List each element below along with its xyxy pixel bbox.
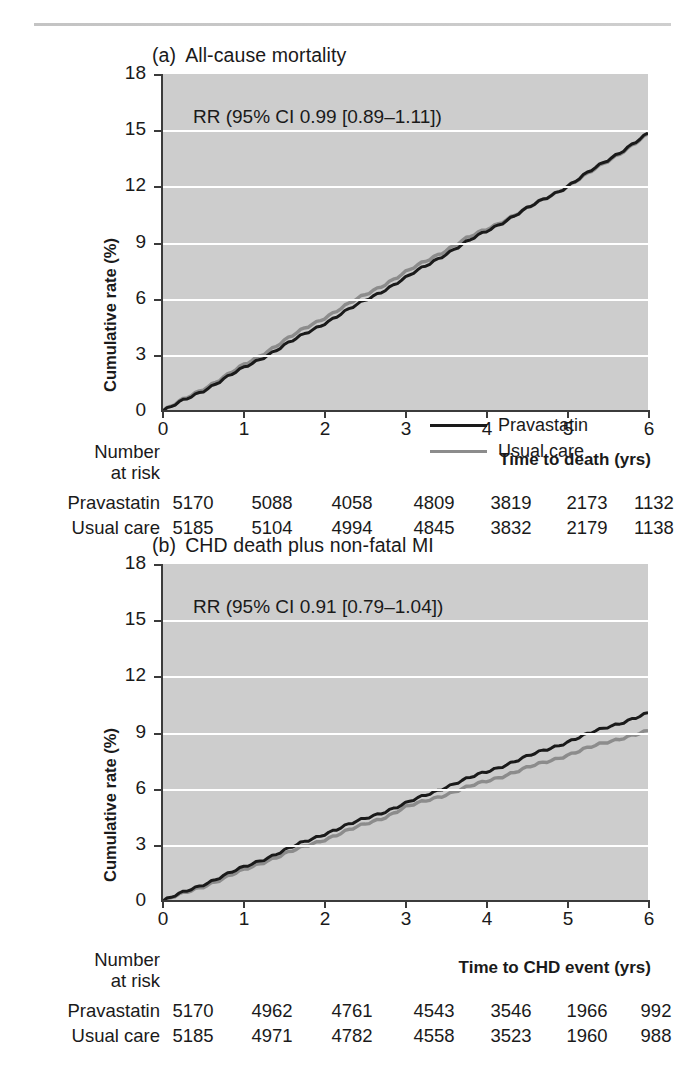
panel-b-ytick-9-mark <box>154 733 161 735</box>
panel-b-gridline-9 <box>163 733 648 735</box>
panel-b-gridline-6 <box>163 789 648 791</box>
panel-a-risk-pravastatin-4: 3819 <box>481 492 541 514</box>
panel-a-xtick-2: 2 <box>310 418 340 440</box>
panel-a-gridline-9 <box>163 243 648 245</box>
panel-b-ytick-9: 9 <box>106 721 146 743</box>
panel-b-ytick-6-mark <box>154 789 161 791</box>
panel-b-ytick-15: 15 <box>106 608 146 630</box>
panel-b-risk-pravastatin-4: 3546 <box>481 1000 541 1022</box>
panel-a-tag: (a) <box>152 44 176 66</box>
panel-b-y-axis-label: Cumulative rate (%) <box>101 728 120 882</box>
panel-a-xtick-6: 6 <box>634 418 664 440</box>
panel-b-xtick-5: 5 <box>553 908 583 930</box>
panel-b-title-text: CHD death plus non-fatal MI <box>185 534 434 556</box>
panel-b-risk-row-label-pravastatin: Pravastatin <box>18 1000 160 1022</box>
panel-b-ytick-6: 6 <box>106 777 146 799</box>
table-row: Pravastatin 5170 4962 4761 4543 3546 196… <box>0 1000 671 1025</box>
table-row: Usual care 5185 4971 4782 4558 3523 1960… <box>0 1025 671 1050</box>
panel-b-x-axis-label: Time to CHD event (yrs) <box>459 958 651 978</box>
panel-a-ytick-6: 6 <box>106 287 146 309</box>
panel-a-ytick-18: 18 <box>106 62 146 84</box>
panel-a-xtick-3-mark <box>405 411 407 418</box>
panel-b-rr-annotation: RR (95% CI 0.91 [0.79–1.04]) <box>193 596 443 618</box>
panel-a-gridline-12 <box>163 186 648 188</box>
panel-chd-death-plus-nonfatal-mi: (b)CHD death plus non-fatal MI Cumulativ… <box>0 534 671 1070</box>
panel-a-x-axis-label: Time to death (yrs) <box>499 450 651 470</box>
panel-a-gridline-3 <box>163 355 648 357</box>
panel-b-risk-pravastatin-3: 4543 <box>404 1000 464 1022</box>
panel-b-y-axis <box>161 564 163 902</box>
panel-a-ytick-9: 9 <box>106 231 146 253</box>
panel-b-risk-pravastatin-2: 4761 <box>322 1000 382 1022</box>
panel-a-ytick-15-mark <box>154 130 161 132</box>
panel-b-risk-usual-care-5: 1960 <box>557 1025 617 1047</box>
panel-b-xtick-4: 4 <box>472 908 502 930</box>
panel-b-xtick-1: 1 <box>229 908 259 930</box>
panel-b-risk-usual-care-4: 3523 <box>481 1025 541 1047</box>
panel-b-gridline-12 <box>163 676 648 678</box>
panel-b-xtick-0-mark <box>162 901 164 908</box>
panel-a-ytick-6-mark <box>154 299 161 301</box>
legend-item-pravastatin: Pravastatin <box>430 412 588 438</box>
panel-b-xtick-6-mark <box>648 901 650 908</box>
panel-b-risk-pravastatin-6: 992 <box>626 1000 678 1022</box>
panel-b-risk-pravastatin-1: 4962 <box>242 1000 302 1022</box>
panel-b-ytick-18-mark <box>154 564 161 566</box>
panel-all-cause-mortality: (a)All-cause mortality Cumulative rate (… <box>0 44 671 534</box>
panel-a-risk-table-header: Number at risk <box>18 442 160 483</box>
panel-a-xtick-3: 3 <box>391 418 421 440</box>
panel-a-ytick-9-mark <box>154 243 161 245</box>
panel-a-risk-header-line2: at risk <box>18 463 160 484</box>
panel-b-risk-table-header: Number at risk <box>18 950 160 991</box>
panel-b-tag: (b) <box>152 534 176 556</box>
panel-a-risk-header-line1: Number <box>18 442 160 463</box>
panel-a-xtick-2-mark <box>324 411 326 418</box>
panel-b-xtick-5-mark <box>567 901 569 908</box>
panel-b-xtick-3: 3 <box>391 908 421 930</box>
panel-a-xtick-0-mark <box>162 411 164 418</box>
panel-b-ytick-3: 3 <box>106 833 146 855</box>
panel-b-xtick-3-mark <box>405 901 407 908</box>
legend-line-pravastatin-icon <box>430 424 487 427</box>
panel-a-xtick-6-mark <box>648 411 650 418</box>
panel-b-risk-pravastatin-0: 5170 <box>163 1000 223 1022</box>
panel-a-y-axis-label: Cumulative rate (%) <box>101 238 120 392</box>
panel-a-risk-row-label-pravastatin: Pravastatin <box>18 492 160 514</box>
panel-b-risk-header-line2: at risk <box>18 971 160 992</box>
panel-a-risk-pravastatin-0: 5170 <box>163 492 223 514</box>
panel-b-risk-usual-care-6: 988 <box>626 1025 678 1047</box>
panel-a-ytick-18-mark <box>154 74 161 76</box>
panel-b-risk-row-label-usual-care: Usual care <box>18 1025 160 1047</box>
legend-label-pravastatin: Pravastatin <box>498 415 588 436</box>
panel-a-ytick-0: 0 <box>106 399 146 421</box>
panel-b-risk-usual-care-1: 4971 <box>242 1025 302 1047</box>
panel-a-risk-pravastatin-5: 2173 <box>557 492 617 514</box>
panel-a-xtick-1-mark <box>243 411 245 418</box>
panel-b-ytick-12-mark <box>154 676 161 678</box>
panel-a-risk-pravastatin-2: 4058 <box>322 492 382 514</box>
panel-b-xtick-0: 0 <box>148 908 178 930</box>
panel-a-xtick-0: 0 <box>148 418 178 440</box>
table-row: Pravastatin 5170 5088 4058 4809 3819 217… <box>0 492 671 517</box>
panel-b-risk-usual-care-3: 4558 <box>404 1025 464 1047</box>
page-top-rule <box>34 23 671 26</box>
panel-a-xtick-1: 1 <box>229 418 259 440</box>
panel-b-title: (b)CHD death plus non-fatal MI <box>152 534 434 557</box>
panel-b-risk-header-line1: Number <box>18 950 160 971</box>
panel-a-risk-pravastatin-1: 5088 <box>242 492 302 514</box>
panel-a-gridline-15 <box>163 130 648 132</box>
panel-b-xtick-1-mark <box>243 901 245 908</box>
panel-b-ytick-0: 0 <box>106 889 146 911</box>
panel-a-risk-pravastatin-6: 1132 <box>624 492 678 514</box>
panel-a-ytick-3-mark <box>154 355 161 357</box>
legend-line-usual-care-icon <box>430 450 487 453</box>
panel-b-ytick-12: 12 <box>106 664 146 686</box>
panel-b-risk-usual-care-0: 5185 <box>163 1025 223 1047</box>
panel-b-gridline-15 <box>163 620 648 622</box>
panel-a-ytick-15: 15 <box>106 118 146 140</box>
panel-b-risk-pravastatin-5: 1966 <box>557 1000 617 1022</box>
panel-a-rr-annotation: RR (95% CI 0.99 [0.89–1.11]) <box>193 106 442 128</box>
panel-a-title: (a)All-cause mortality <box>152 44 346 67</box>
panel-b-ytick-15-mark <box>154 620 161 622</box>
panel-a-ytick-12: 12 <box>106 174 146 196</box>
